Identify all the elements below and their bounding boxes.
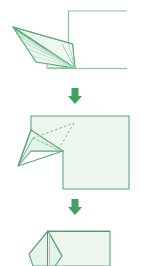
step-3-final-fold	[29, 231, 110, 266]
diagram-canvas	[0, 0, 143, 266]
origami-instruction-diagram: Step 1 — fan of crease lines folded to l…	[0, 0, 143, 266]
step2-main-body	[31, 116, 129, 189]
arrow-2-glyph	[68, 199, 82, 215]
down-arrow-icon-1	[68, 88, 82, 104]
step-1-fan-fold	[13, 11, 127, 69]
arrow-1-glyph	[68, 88, 82, 104]
step-2-flap-fold	[18, 116, 129, 189]
down-arrow-icon-2	[68, 199, 82, 215]
